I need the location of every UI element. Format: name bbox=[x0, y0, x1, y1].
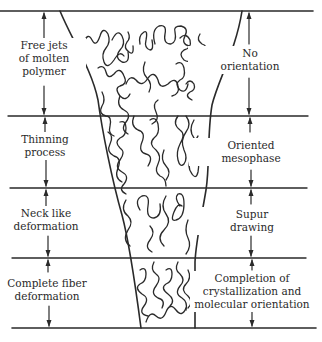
crystallized-chains bbox=[137, 262, 191, 322]
label-oriented-mesophase: Oriented mesophase bbox=[189, 138, 313, 166]
drawn-chains bbox=[123, 194, 189, 254]
oriented-chains bbox=[108, 116, 199, 194]
fiber-spinning-diagram: Free jets of molten polymer Thinning pro… bbox=[0, 0, 322, 342]
label-supur-drawing: Supur drawing bbox=[190, 207, 314, 235]
label-complete-fiber-deformation: Complete fiber deformation bbox=[5, 276, 89, 304]
label-free-jets: Free jets of molten polymer bbox=[2, 38, 86, 79]
label-no-orientation: No orientation bbox=[188, 46, 312, 74]
label-neck-like-deformation: Neck like deformation bbox=[4, 206, 88, 234]
label-thinning-process: Thinning process bbox=[3, 132, 87, 160]
label-completion-crystallization: Completion of crystallization and molecu… bbox=[190, 271, 314, 312]
